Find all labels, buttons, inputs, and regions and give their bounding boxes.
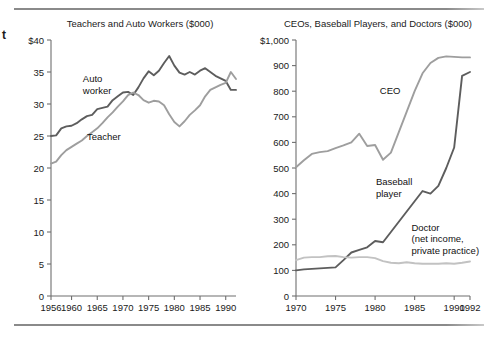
x-tick-label: 1956 — [40, 302, 61, 313]
series-label-line: player — [376, 188, 402, 199]
y-tick-label: 0 — [284, 291, 289, 302]
series-label-baseball-player: Baseballplayer — [376, 176, 412, 199]
series-label-line: (net income, — [411, 233, 463, 244]
y-tick-label: $1,000 — [260, 35, 289, 46]
y-tick-label: 35 — [33, 67, 44, 78]
top-divider-rule — [14, 8, 484, 10]
series-label-ceo: CEO — [380, 85, 401, 96]
x-tick-label: 1960 — [61, 302, 82, 313]
x-tick-label: 1990 — [215, 302, 236, 313]
series-label-line: Auto — [83, 73, 103, 84]
y-tick-label: 5 — [39, 259, 44, 270]
series-label-line: Baseball — [376, 176, 412, 187]
series-line-doctor-net-income-private-practice — [296, 256, 470, 264]
y-tick-label: 25 — [33, 131, 44, 142]
series-label-line: worker — [82, 85, 112, 96]
y-tick-label: 20 — [33, 163, 44, 174]
series-label-teacher: Teacher — [87, 131, 121, 142]
x-tick-label: 1992 — [459, 302, 480, 313]
chart-panel-teachers-auto-workers: Teachers and Auto Workers ($000) $403530… — [14, 18, 242, 318]
y-tick-label: 15 — [33, 195, 44, 206]
chart-title-left: Teachers and Auto Workers ($000) — [14, 18, 242, 29]
y-tick-label: $40 — [28, 35, 44, 46]
y-tick-label: 400 — [273, 188, 289, 199]
y-tick-label: 800 — [273, 86, 289, 97]
y-tick-label: 600 — [273, 137, 289, 148]
y-tick-label: 0 — [39, 291, 44, 302]
y-tick-label: 200 — [273, 239, 289, 250]
x-tick-label: 1965 — [87, 302, 108, 313]
series-line-ceo — [296, 56, 470, 167]
y-tick-label: 30 — [33, 99, 44, 110]
figure-container: t Teachers and Auto Workers ($000) $4035… — [0, 0, 497, 342]
series-label-line: CEO — [380, 85, 401, 96]
series-label-auto-worker: Autoworker — [82, 73, 112, 96]
y-tick-label: 500 — [273, 163, 289, 174]
series-label-line: Teacher — [87, 131, 121, 142]
x-tick-label: 1970 — [285, 302, 306, 313]
series-label-line: Doctor — [411, 222, 439, 233]
chart-title-right: CEOs, Baseball Players, and Doctors ($00… — [244, 18, 494, 29]
series-line-teacher — [51, 72, 236, 164]
x-tick-label: 1980 — [365, 302, 386, 313]
bottom-divider-rule — [14, 324, 484, 326]
x-tick-label: 1970 — [112, 302, 133, 313]
y-tick-label: 900 — [273, 60, 289, 71]
x-tick-label: 1975 — [138, 302, 159, 313]
y-tick-label: 700 — [273, 111, 289, 122]
series-line-auto-worker — [51, 56, 236, 136]
x-tick-label: 1975 — [325, 302, 346, 313]
y-tick-label: 10 — [33, 227, 44, 238]
y-tick-label: 300 — [273, 214, 289, 225]
y-tick-label: 100 — [273, 265, 289, 276]
x-tick-label: 1985 — [189, 302, 210, 313]
x-tick-label: 1985 — [404, 302, 425, 313]
x-tick-label: 1980 — [164, 302, 185, 313]
chart-svg-right: $1,0009008007006005004003002001000197019… — [244, 18, 494, 318]
margin-text-fragment: t — [2, 28, 6, 42]
chart-panel-ceos-baseball-doctors: CEOs, Baseball Players, and Doctors ($00… — [244, 18, 494, 318]
series-label-doctor-net-income-private-practice: Doctor(net income,private practice) — [411, 222, 479, 256]
series-label-line: private practice) — [411, 245, 479, 256]
chart-svg-left: $403530252015105019561960196519701975198… — [14, 18, 242, 318]
